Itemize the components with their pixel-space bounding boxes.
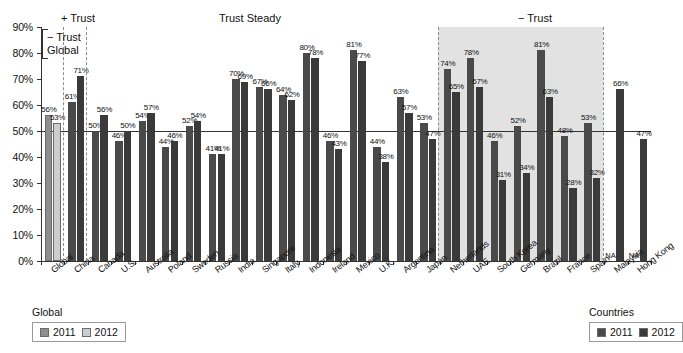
bar-value-label: 63% bbox=[543, 87, 558, 96]
x-tick bbox=[41, 261, 42, 265]
bar-2011 bbox=[92, 131, 99, 261]
bar-value-label: 46% bbox=[487, 131, 502, 140]
y-axis-tick-label: 0% bbox=[0, 255, 33, 267]
legend-swatch-countries-2011 bbox=[597, 328, 606, 337]
bar-2011 bbox=[420, 123, 427, 261]
bar-value-label: 66% bbox=[261, 79, 276, 88]
bar-2011 bbox=[350, 50, 357, 261]
legend-countries-label-2012: 2012 bbox=[652, 326, 675, 338]
y-axis-tick-label: 30% bbox=[0, 177, 33, 189]
bar-2012 bbox=[100, 115, 107, 261]
bar-2011 bbox=[584, 123, 591, 261]
legend-swatch-global-2012 bbox=[82, 328, 91, 337]
bar-2012 bbox=[382, 162, 389, 261]
annotation-plus-trust: + Trust bbox=[48, 12, 108, 24]
legend-countries: 2011 2012 bbox=[589, 322, 683, 342]
y-axis-tick-label: 70% bbox=[0, 73, 33, 85]
bar-value-label: 52% bbox=[511, 116, 526, 125]
y-axis-tick-label: 40% bbox=[0, 151, 33, 163]
group-divider-line bbox=[603, 27, 604, 261]
bar-value-label: 81% bbox=[534, 40, 549, 49]
legend-global: 2011 2012 bbox=[32, 322, 126, 342]
bar-value-label: 53% bbox=[581, 113, 596, 122]
bar-2012 bbox=[218, 154, 225, 261]
bar-2012 bbox=[499, 180, 506, 261]
bar-2012 bbox=[241, 82, 248, 261]
bar-2012 bbox=[124, 131, 131, 261]
x-axis-category-label: China bbox=[72, 253, 96, 275]
bar-value-label: 41% bbox=[214, 144, 229, 153]
bar-2012 bbox=[194, 121, 201, 261]
bar-2012 bbox=[288, 100, 295, 261]
legend-global-item-2011: 2011 bbox=[40, 326, 76, 338]
bar-value-label: 48% bbox=[557, 126, 572, 135]
bar-value-label: 67% bbox=[472, 77, 487, 86]
legend-countries-item-2011: 2011 bbox=[597, 326, 633, 338]
legend-global-item-2012: 2012 bbox=[82, 326, 118, 338]
y-axis-tick-label: 50% bbox=[0, 125, 33, 137]
legend-swatch-global-2011 bbox=[40, 328, 49, 337]
y-axis-tick-label: 60% bbox=[0, 99, 33, 111]
bar-2011 bbox=[537, 50, 544, 261]
y-tick bbox=[37, 53, 41, 54]
legend-global-label-2012: 2012 bbox=[95, 326, 118, 338]
bar-2011 bbox=[256, 87, 263, 261]
y-tick bbox=[37, 235, 41, 236]
bar-2012 bbox=[616, 89, 623, 261]
bar-2012 bbox=[77, 76, 84, 261]
bar-2011 bbox=[186, 126, 193, 261]
bar-value-label: 38% bbox=[378, 152, 393, 161]
bar-2012 bbox=[593, 178, 600, 261]
annotation-minus-trust: − Trust bbox=[485, 12, 585, 24]
bar-value-label: 78% bbox=[308, 48, 323, 57]
bar-value-label: 53% bbox=[417, 113, 432, 122]
bar-2012 bbox=[429, 139, 436, 261]
bar-2012 bbox=[147, 113, 154, 261]
bar-2011 bbox=[373, 147, 380, 261]
bar-value-label: 57% bbox=[144, 103, 159, 112]
bar-2012 bbox=[171, 141, 178, 261]
bar-2011 bbox=[326, 141, 333, 261]
bar-value-label: 66% bbox=[613, 79, 628, 88]
bar-value-label: 77% bbox=[355, 51, 370, 60]
bar-2012 bbox=[405, 113, 412, 261]
y-axis-line bbox=[41, 27, 42, 262]
legend-countries-title: Countries bbox=[589, 306, 634, 318]
bar-value-label: 74% bbox=[440, 59, 455, 68]
bar-2011 bbox=[232, 79, 239, 261]
bar-value-label: 28% bbox=[566, 178, 581, 187]
bar-value-label: 31% bbox=[496, 170, 511, 179]
bar-value-label: 46% bbox=[167, 131, 182, 140]
annotation-trust-steady: Trust Steady bbox=[170, 12, 330, 24]
bar-value-label: 47% bbox=[636, 129, 651, 138]
bar-value-label: 34% bbox=[519, 163, 534, 172]
bar-value-label: 65% bbox=[449, 82, 464, 91]
bar-2012 bbox=[358, 61, 365, 261]
legend-global-title: Global bbox=[32, 306, 62, 318]
bar-value-label: 57% bbox=[402, 103, 417, 112]
bar-value-label: 78% bbox=[464, 48, 479, 57]
bar-2011 bbox=[514, 126, 521, 261]
bar-2011 bbox=[444, 69, 451, 261]
bar-2011 bbox=[467, 58, 474, 261]
bar-2011 bbox=[303, 53, 310, 261]
group-divider-line bbox=[63, 27, 64, 261]
legend-swatch-countries-2012 bbox=[639, 328, 648, 337]
bar-2012 bbox=[546, 97, 553, 261]
bar-value-label: 69% bbox=[238, 72, 253, 81]
bar-2012 bbox=[569, 188, 576, 261]
y-tick bbox=[37, 79, 41, 80]
bar-2012 bbox=[452, 92, 459, 261]
legend-global-label-2011: 2011 bbox=[53, 326, 76, 338]
bar-value-label: 54% bbox=[191, 111, 206, 120]
bar-value-label: 81% bbox=[346, 40, 361, 49]
bar-value-label: 62% bbox=[285, 90, 300, 99]
bar-2011 bbox=[561, 136, 568, 261]
y-axis-tick-label: 80% bbox=[0, 47, 33, 59]
bar-2012 bbox=[53, 123, 60, 261]
bar-2011 bbox=[491, 141, 498, 261]
bar-2011 bbox=[209, 154, 216, 261]
bar-2011 bbox=[68, 102, 75, 261]
y-axis-tick-label: 10% bbox=[0, 229, 33, 241]
